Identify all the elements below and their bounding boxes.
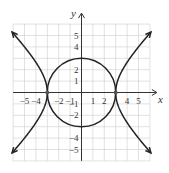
x-tick-label: −2 [54,96,64,106]
x-tick-label: 4 [125,96,130,106]
x-tick-label: 1 [91,96,96,106]
y-tick-label: −2 [69,110,79,120]
y-tick-label: 4 [74,42,79,52]
x-tick-label: 2 [102,96,107,106]
x-tick-label: −4 [31,96,41,106]
y-tick-label: −1 [69,99,79,109]
y-tick-label: −4 [69,133,79,143]
x-axis-label: x [157,93,163,105]
y-tick-label: −5 [69,145,79,155]
y-tick-label: 5 [74,31,79,41]
y-axis-label: y [70,7,76,19]
graph: −5−4−2−112455421−1−2−4−5 x y [0,0,169,173]
x-tick-label: 5 [136,96,141,106]
y-tick-label: 2 [74,65,79,75]
x-tick-label: −5 [20,96,30,106]
intersection-point [45,91,49,95]
y-tick-label: 1 [74,76,79,86]
intersection-point [114,91,118,95]
